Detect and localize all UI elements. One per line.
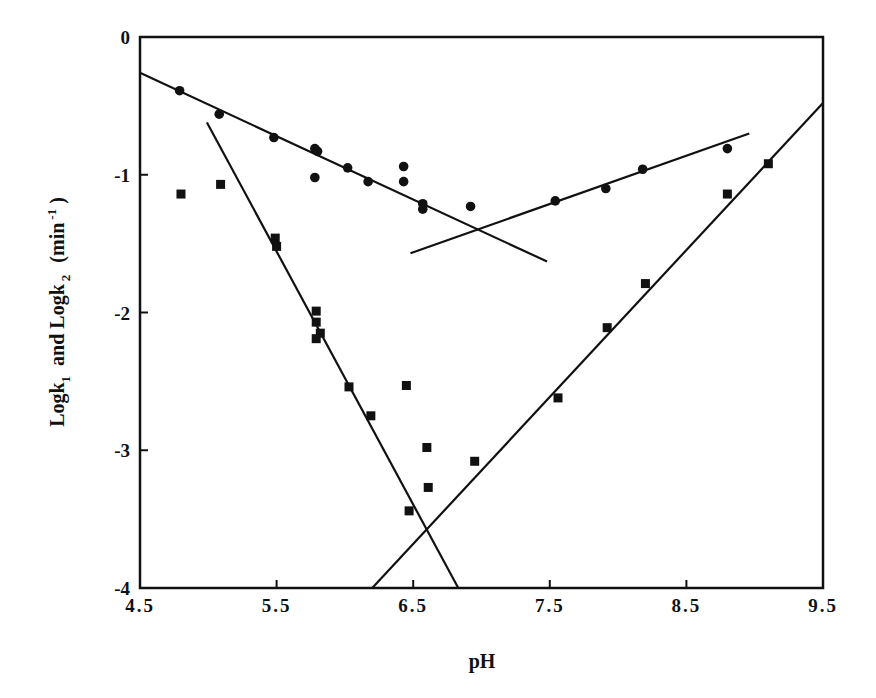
data-point-circle [269,133,279,143]
x-axis-title: pH [469,650,496,673]
data-point-circle [214,109,224,119]
data-point-circle [313,147,323,157]
data-point-circle [310,173,320,183]
x-tick-label: 6.5 [398,595,428,616]
data-point-square [603,323,612,332]
data-point-circle [418,204,428,214]
data-point-circle [399,162,409,172]
data-point-square [424,483,433,492]
data-point-square [271,234,280,243]
y-axis-title: Logk1and Logk2(min-1) [44,197,73,427]
data-point-circle [363,177,373,187]
data-point-square [470,457,479,466]
data-point-square [422,443,431,452]
data-point-square [312,334,321,343]
x-tick-label: 5.5 [262,595,292,616]
data-point-circle [343,163,353,173]
data-point-circle [601,184,611,194]
data-point-circle [399,177,409,187]
x-tick-label: 9.5 [808,595,838,616]
data-point-square [366,411,375,420]
data-point-square [272,242,281,251]
data-point-square [312,318,321,327]
y-tick-label: -3 [114,440,130,461]
y-axis: 0-1-2-3-4 [114,27,148,599]
fit-line [410,133,749,253]
data-point-square [216,180,225,189]
data-point-circle [175,86,185,96]
fit-line [372,103,823,588]
chart: 4.55.56.57.58.59.5 0-1-2-3-4 pH Logk1and… [0,0,876,698]
data-point-square [641,279,650,288]
data-point-square [176,190,185,199]
y-tick-label: -2 [114,303,130,324]
fit-line [207,122,458,588]
data-point-square [553,393,562,402]
data-point-square [764,159,773,168]
data-point-square [723,190,732,199]
x-tick-label: 8.5 [672,595,702,616]
y-tick-label: -4 [114,578,130,599]
x-tick-label: 7.5 [535,595,565,616]
data-point-square [402,381,411,390]
y-tick-label: 0 [121,27,131,48]
plot-area [140,73,823,588]
data-point-circle [466,202,476,212]
data-point-square [312,307,321,316]
data-point-circle [550,196,560,206]
data-point-circle [638,164,648,174]
data-point-circle [723,144,733,154]
y-tick-label: -1 [114,165,130,186]
data-point-square [405,506,414,515]
data-point-square [344,382,353,391]
x-axis: 4.55.56.57.58.59.5 [125,580,838,616]
